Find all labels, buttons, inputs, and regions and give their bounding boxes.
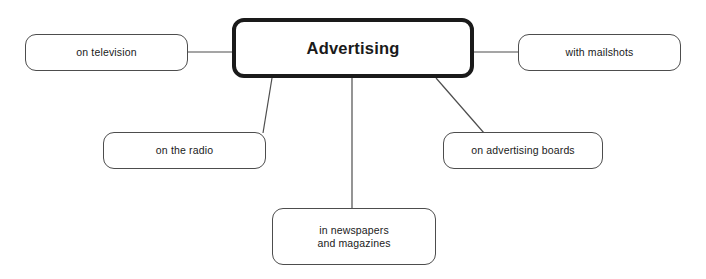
branch-node-on-the-radio[interactable]: on the radio xyxy=(103,132,266,169)
branch-node-label: in newspapers and magazines xyxy=(317,224,390,250)
branch-node-label: on advertising boards xyxy=(471,144,575,157)
branch-node-with-mailshots[interactable]: with mailshots xyxy=(518,34,681,71)
branch-node-in-newspapers-and-magazines[interactable]: in newspapers and magazines xyxy=(272,208,436,265)
diagram-canvas: Advertising on television with mailshots… xyxy=(0,0,706,279)
branch-node-label: on the radio xyxy=(156,144,213,157)
connector-boards xyxy=(436,78,484,133)
branch-node-label: with mailshots xyxy=(565,46,633,59)
central-node-advertising[interactable]: Advertising xyxy=(232,18,474,78)
central-node-label: Advertising xyxy=(307,42,400,55)
branch-node-on-advertising-boards[interactable]: on advertising boards xyxy=(443,132,603,169)
connector-radio xyxy=(263,78,272,133)
branch-node-on-television[interactable]: on television xyxy=(25,34,188,71)
branch-node-label: on television xyxy=(76,46,136,59)
